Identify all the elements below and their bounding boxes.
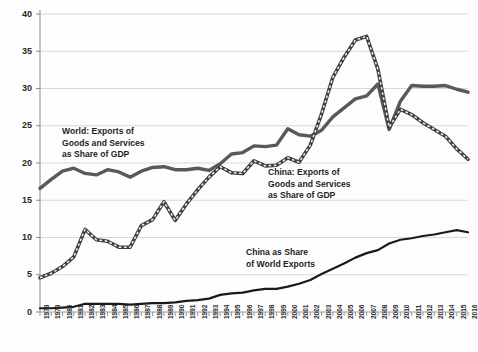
annotation-line: China as Share bbox=[246, 247, 315, 259]
x-axis-tick-label: 1982 bbox=[88, 305, 95, 319]
y-axis-tick-label: 20 bbox=[8, 159, 32, 168]
x-axis-tick-label: 2003 bbox=[325, 305, 332, 319]
x-axis-tick-label: 1985 bbox=[122, 305, 129, 319]
x-axis-tick-label: 2013 bbox=[437, 305, 444, 319]
x-axis-tick-label: 1998 bbox=[268, 305, 275, 319]
y-axis-tick-label: 30 bbox=[8, 84, 32, 93]
y-axis-tick-label: 35 bbox=[8, 47, 32, 56]
x-axis-tick-label: 1984 bbox=[111, 305, 118, 319]
x-axis-tick-label: 2000 bbox=[291, 305, 298, 319]
annotation-line: as Share of GDP bbox=[62, 149, 145, 161]
x-axis-tick-label: 1981 bbox=[77, 305, 84, 319]
x-axis-tick-label: 1979 bbox=[54, 305, 61, 319]
x-axis-tick-label: 2010 bbox=[403, 305, 410, 319]
annotation-line: of World Exports bbox=[246, 259, 315, 271]
china-world-share-annotation: China as Shareof World Exports bbox=[246, 247, 315, 270]
x-axis-tick-label: 1994 bbox=[223, 305, 230, 319]
x-axis-tick-label: 2005 bbox=[347, 305, 354, 319]
x-axis-tick-label: 2004 bbox=[336, 305, 343, 319]
annotation-line: as Share of GDP bbox=[268, 190, 351, 202]
x-axis-tick-label: 1996 bbox=[246, 305, 253, 319]
x-axis-tick-label: 1988 bbox=[156, 305, 163, 319]
x-axis-tick-label: 1991 bbox=[189, 305, 196, 319]
x-axis-tick-label: 1993 bbox=[212, 305, 219, 319]
annotation-line: Goods and Services bbox=[62, 138, 145, 150]
x-axis-tick-label: 1986 bbox=[133, 305, 140, 319]
x-axis-tick-label: 2001 bbox=[302, 305, 309, 319]
annotation-line: Goods and Services bbox=[268, 179, 351, 191]
x-axis-tick-label: 2006 bbox=[358, 305, 365, 319]
china-gdp-annotation: China: Exports ofGoods and Servicesas Sh… bbox=[268, 167, 351, 202]
x-axis-tick-label: 1978 bbox=[43, 305, 50, 319]
x-axis-tick-label: 1983 bbox=[99, 305, 106, 319]
x-axis-tick-label: 1989 bbox=[167, 305, 174, 319]
y-axis-tick-label: 0 bbox=[8, 308, 32, 317]
y-axis-tick-label: 10 bbox=[8, 233, 32, 242]
y-axis-tick-label: 5 bbox=[8, 270, 32, 279]
y-axis-tick-label: 25 bbox=[8, 121, 32, 130]
x-axis-tick-label: 1992 bbox=[201, 305, 208, 319]
x-axis-tick-label: 1995 bbox=[234, 305, 241, 319]
world-annotation: World: Exports ofGoods and Servicesas Sh… bbox=[62, 126, 145, 161]
x-axis-tick-label: 1987 bbox=[144, 305, 151, 319]
x-axis-tick-label: 2008 bbox=[381, 305, 388, 319]
y-axis-tick-label: 40 bbox=[8, 10, 32, 19]
y-axis-tick-label: 15 bbox=[8, 196, 32, 205]
x-axis-tick-label: 1990 bbox=[178, 305, 185, 319]
x-axis-tick-label: 2009 bbox=[392, 305, 399, 319]
x-axis-tick-label: 2011 bbox=[415, 305, 422, 319]
x-axis-tick-label: 1997 bbox=[257, 305, 264, 319]
annotation-line: China: Exports of bbox=[268, 167, 351, 179]
x-axis-tick-label: 1999 bbox=[280, 305, 287, 319]
x-axis-tick-label: 2012 bbox=[426, 305, 433, 319]
x-axis-tick-label: 1980 bbox=[66, 305, 73, 319]
x-axis-tick-label: 2007 bbox=[370, 305, 377, 319]
x-axis-tick-label: 2002 bbox=[313, 305, 320, 319]
x-axis-tick-label: 2016 bbox=[471, 305, 478, 319]
x-axis-tick-label: 2015 bbox=[460, 305, 467, 319]
x-axis-tick-label: 2014 bbox=[448, 305, 455, 319]
annotation-line: World: Exports of bbox=[62, 126, 145, 138]
